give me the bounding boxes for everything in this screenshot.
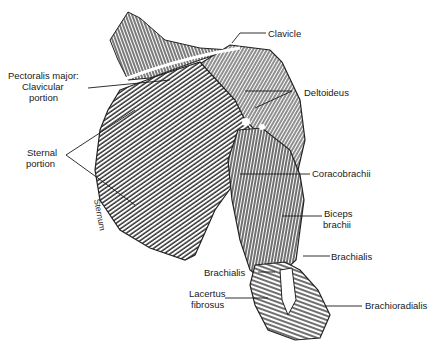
label-brachioradialis: Brachioradialis — [365, 300, 427, 311]
label-coracobrachii: Coracobrachii — [312, 168, 371, 179]
label-fibrosus: fibrosus — [191, 299, 224, 310]
label-clavicular: Clavicular — [22, 81, 64, 92]
label-clavicle: Clavicle — [268, 28, 301, 39]
anatomy-diagram: Clavicle Pectoralis major: Clavicular po… — [0, 0, 434, 352]
label-sternal: Sternal — [27, 147, 57, 158]
label-sternal-portion: portion — [26, 158, 55, 169]
label-brachii: brachii — [323, 219, 351, 230]
label-deltoideus: Deltoideus — [304, 87, 349, 98]
label-brachialis-right: Brachialis — [331, 251, 372, 262]
label-brachialis-left: Brachialis — [204, 267, 245, 278]
label-clavicular-portion: portion — [29, 92, 58, 103]
label-biceps: Biceps — [324, 208, 353, 219]
label-lacertus: Lacertus — [189, 288, 225, 299]
label-pectoralis-major: Pectoralis major: — [8, 70, 79, 81]
